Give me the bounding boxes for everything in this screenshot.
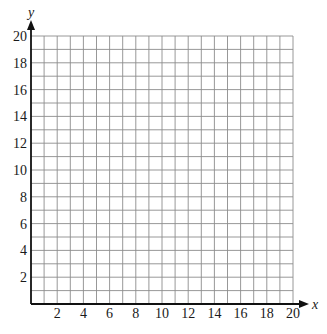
y-tick-labels: 2468101214161820 bbox=[13, 29, 27, 285]
y-tick-label: 10 bbox=[13, 163, 27, 178]
y-tick-label: 4 bbox=[20, 243, 27, 258]
y-tick-label: 16 bbox=[13, 83, 27, 98]
x-tick-label: 20 bbox=[286, 306, 300, 321]
x-tick-label: 10 bbox=[155, 306, 169, 321]
x-tick-label: 16 bbox=[234, 306, 248, 321]
x-tick-label: 8 bbox=[132, 306, 139, 321]
x-tick-label: 2 bbox=[54, 306, 61, 321]
y-axis-label: y bbox=[26, 5, 35, 20]
y-tick-label: 12 bbox=[13, 136, 27, 151]
x-tick-label: 4 bbox=[80, 306, 87, 321]
x-tick-label: 14 bbox=[207, 306, 221, 321]
y-tick-label: 20 bbox=[13, 29, 27, 44]
x-tick-label: 6 bbox=[106, 306, 113, 321]
x-tick-label: 12 bbox=[181, 306, 195, 321]
y-tick-label: 6 bbox=[20, 217, 27, 232]
x-tick-labels: 2468101214161820 bbox=[54, 306, 300, 321]
coordinate-grid-chart: x y 2468101214161820 2468101214161820 bbox=[0, 0, 327, 334]
y-tick-label: 8 bbox=[20, 190, 27, 205]
y-axis-arrow-icon bbox=[27, 20, 35, 30]
y-tick-label: 2 bbox=[20, 270, 27, 285]
grid-lines bbox=[31, 36, 293, 304]
y-tick-label: 14 bbox=[13, 109, 27, 124]
x-tick-label: 18 bbox=[260, 306, 274, 321]
x-axis-arrow-icon bbox=[299, 300, 309, 308]
y-tick-label: 18 bbox=[13, 56, 27, 71]
x-axis-label: x bbox=[311, 297, 319, 312]
